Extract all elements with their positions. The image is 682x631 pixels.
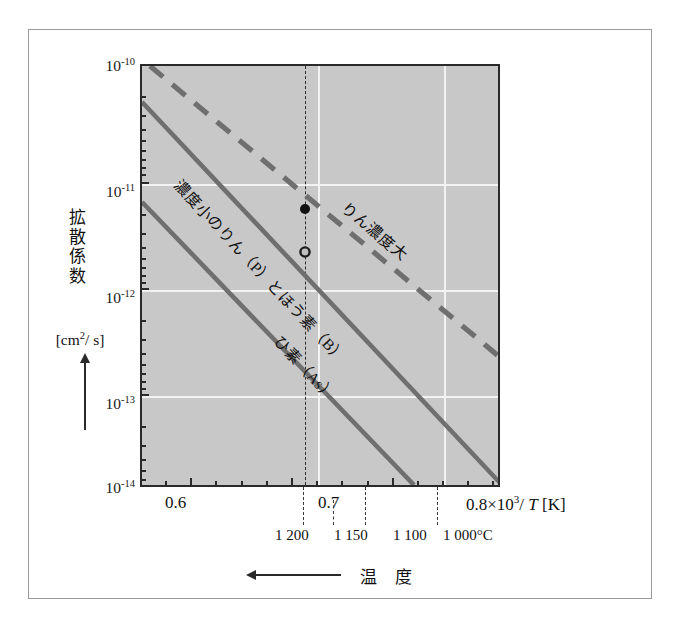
y-tick-minor bbox=[140, 426, 146, 428]
y-axis-ticks bbox=[140, 64, 152, 487]
x-tick-minor bbox=[341, 481, 343, 487]
y-tick-minor bbox=[140, 159, 146, 161]
chart-page: 10-10 10-11 10-12 10-13 10-14 拡 散 係 数 [c… bbox=[0, 0, 682, 631]
y-tick-minor bbox=[140, 364, 146, 366]
x-tick-minor bbox=[417, 481, 419, 487]
x-tick-minor bbox=[467, 481, 469, 487]
x-axis-label: 0.8×103/ T [K] bbox=[466, 493, 566, 515]
y-tick-minor bbox=[140, 320, 146, 322]
y-tick-minor bbox=[140, 96, 146, 98]
left-arrow-icon bbox=[255, 574, 341, 576]
x-axis-divider: / bbox=[519, 495, 524, 514]
y-tick-minor bbox=[140, 373, 146, 375]
y-tick-major bbox=[140, 288, 149, 290]
x-axis-multiplier: ×10 bbox=[487, 495, 514, 514]
y-tick-minor bbox=[140, 381, 146, 383]
y-tick-minor bbox=[140, 459, 146, 461]
y-axis-title-char: 係 bbox=[64, 247, 90, 267]
y-tick-minor bbox=[140, 339, 146, 341]
x-tick-label-0.7: 0.7 bbox=[318, 493, 339, 513]
y-tick-minor bbox=[140, 140, 146, 142]
plot-inner: 濃度小のりん（P）とほう素（B） ひ素（As） りん濃度大 bbox=[142, 66, 498, 485]
x-axis-variable-T: T bbox=[528, 495, 537, 514]
y-tick-minor bbox=[140, 282, 146, 284]
temperature-tick-1100 bbox=[365, 487, 366, 525]
x-tick-major bbox=[392, 478, 394, 487]
x-tick-label-0.6: 0.6 bbox=[165, 493, 186, 513]
y-tick-minor bbox=[140, 247, 146, 249]
y-tick-label: 10-14 bbox=[106, 478, 136, 497]
temperature-label-1200: 1 200 bbox=[275, 527, 309, 544]
x-tick-minor bbox=[316, 481, 318, 487]
y-tick-label: 10-11 bbox=[106, 182, 135, 201]
y-tick-minor bbox=[140, 258, 146, 260]
y-tick-minor bbox=[140, 214, 146, 216]
curve-phosphorus-boron-solid bbox=[142, 102, 498, 485]
y-axis-tick-labels: 10-10 10-11 10-12 10-13 10-14 bbox=[40, 0, 135, 631]
data-point-filled bbox=[300, 204, 310, 214]
y-axis-title: 拡 散 係 数 bbox=[64, 208, 90, 287]
temperature-tick-1200 bbox=[303, 487, 304, 525]
x-tick-major bbox=[190, 478, 192, 487]
y-tick-major bbox=[140, 394, 149, 396]
temperature-caption-text: 温 度 bbox=[360, 563, 419, 588]
y-axis-direction-arrow-icon bbox=[84, 362, 86, 430]
x-tick-minor bbox=[367, 481, 369, 487]
y-unit-prefix: [cm bbox=[56, 331, 80, 348]
y-axis-title-char: 散 bbox=[64, 228, 90, 248]
x-tick-major bbox=[291, 478, 293, 487]
y-tick-minor bbox=[140, 275, 146, 277]
y-tick-minor bbox=[140, 129, 146, 131]
y-tick-exponent: -11 bbox=[121, 182, 135, 193]
y-tick-minor bbox=[140, 115, 146, 117]
y-tick-exponent: -12 bbox=[121, 288, 135, 299]
y-tick-major bbox=[140, 182, 149, 184]
x-tick-minor bbox=[266, 481, 268, 487]
x-tick-minor bbox=[442, 481, 444, 487]
y-tick-minor bbox=[140, 150, 146, 152]
y-tick-exponent: -10 bbox=[121, 56, 135, 67]
x-axis-unit-kelvin: [K] bbox=[542, 495, 566, 514]
x-tick-minor bbox=[241, 481, 243, 487]
y-tick-minor bbox=[140, 353, 146, 355]
y-axis-unit-label: [cm2/ s] bbox=[40, 330, 120, 349]
x-axis-ticks bbox=[140, 477, 500, 487]
y-tick-minor bbox=[140, 267, 146, 269]
y-tick-minor bbox=[140, 233, 146, 235]
data-point-open bbox=[300, 247, 309, 256]
plot-area: 濃度小のりん（P）とほう素（B） ひ素（As） りん濃度大 bbox=[140, 64, 500, 487]
temperature-tick-1150 bbox=[333, 500, 334, 525]
temperature-label-1150: 1 150 bbox=[334, 527, 368, 544]
y-tick-minor bbox=[140, 445, 146, 447]
x-tick-label-0.8: 0.8 bbox=[466, 495, 487, 514]
x-tick-minor bbox=[140, 481, 142, 487]
y-tick-minor bbox=[140, 174, 146, 176]
y-tick-major bbox=[140, 64, 149, 66]
y-tick-label: 10-10 bbox=[106, 56, 136, 75]
x-tick-minor bbox=[492, 481, 494, 487]
y-axis-title-char: 数 bbox=[64, 267, 90, 287]
y-tick-exponent: -13 bbox=[121, 394, 135, 405]
temperature-label-1100: 1 100 bbox=[393, 527, 427, 544]
x-tick-minor bbox=[165, 481, 167, 487]
temperature-tick-1000 bbox=[437, 487, 438, 525]
y-tick-minor bbox=[140, 388, 146, 390]
temperature-axis-caption: 温 度 bbox=[200, 560, 430, 590]
y-tick-exponent: -14 bbox=[121, 478, 135, 489]
y-axis-title-char: 拡 bbox=[64, 208, 90, 228]
y-tick-label: 10-12 bbox=[106, 288, 136, 307]
y-tick-minor bbox=[140, 470, 146, 472]
temperature-label-1000: 1 000°C bbox=[443, 527, 493, 544]
y-tick-minor bbox=[140, 167, 146, 169]
x-tick-minor bbox=[215, 481, 217, 487]
y-unit-suffix: / s] bbox=[85, 331, 104, 348]
y-tick-label: 10-13 bbox=[106, 394, 136, 413]
chart-curves bbox=[142, 66, 498, 485]
